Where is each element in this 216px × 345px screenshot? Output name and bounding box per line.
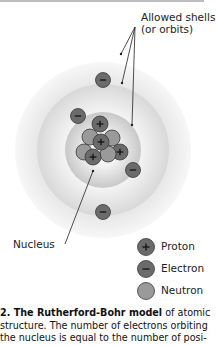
electron bbox=[96, 73, 111, 88]
atom-diagram bbox=[0, 0, 204, 305]
electron bbox=[96, 205, 111, 220]
caption-line-2: structure. The number of electrons orbit… bbox=[0, 320, 204, 333]
shell-leader-dot bbox=[120, 53, 122, 55]
caption-line-1-rest: of atomic bbox=[162, 307, 210, 318]
allowed-shells-label-line2: (or orbits) bbox=[141, 23, 215, 35]
nucleus-label: Nucleus bbox=[13, 238, 55, 250]
allowed-shells-label-line1: Allowed shells bbox=[141, 11, 215, 23]
proton bbox=[92, 116, 108, 132]
legend-label-proton: Proton bbox=[161, 240, 195, 252]
caption-line-1: 2. The Rutherford-Bohr model of atomic bbox=[0, 307, 204, 320]
legend-label-electron: Electron bbox=[161, 262, 204, 274]
electron bbox=[126, 163, 141, 178]
legend-label-neutron: Neutron bbox=[161, 284, 203, 296]
caption-title: 2. The Rutherford-Bohr model bbox=[0, 307, 162, 318]
proton bbox=[93, 134, 109, 150]
electron bbox=[71, 109, 86, 124]
legend-electron-icon bbox=[138, 261, 155, 278]
shell-leader-line-outer bbox=[121, 27, 135, 54]
shell-leader-dot bbox=[131, 124, 133, 126]
allowed-shells-label: Allowed shells (or orbits) bbox=[141, 11, 215, 35]
legend-proton-icon bbox=[138, 239, 155, 256]
legend-neutron-icon bbox=[138, 283, 155, 300]
shell-leader-dot bbox=[121, 82, 123, 84]
caption-line-3: the nucleus is equal to the number of po… bbox=[0, 332, 204, 345]
proton bbox=[85, 149, 101, 165]
figure-caption: 2. The Rutherford-Bohr model of atomic s… bbox=[0, 307, 204, 345]
nucleus-leader-dot bbox=[92, 170, 94, 172]
